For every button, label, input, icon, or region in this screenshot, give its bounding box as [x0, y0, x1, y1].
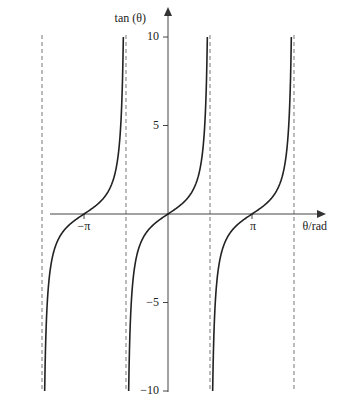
y-axis-arrow-icon [164, 7, 172, 16]
chart: tan (θ) 10 5 −5 −10 −π π θ/rad [0, 0, 348, 412]
y-tick-5: 5 [153, 118, 159, 132]
tan-plot: tan (θ) 10 5 −5 −10 −π π θ/rad [0, 0, 348, 412]
y-tick-m10: −10 [140, 383, 159, 397]
x-axis-arrow-icon [317, 210, 326, 218]
y-tick-m5: −5 [146, 295, 159, 309]
x-tick-minus-pi: −π [78, 219, 91, 233]
y-axis-label: tan (θ) [115, 11, 146, 25]
x-axis-label: θ/rad [303, 219, 327, 233]
y-tick-10: 10 [147, 29, 159, 43]
x-tick-pi: π [250, 219, 256, 233]
